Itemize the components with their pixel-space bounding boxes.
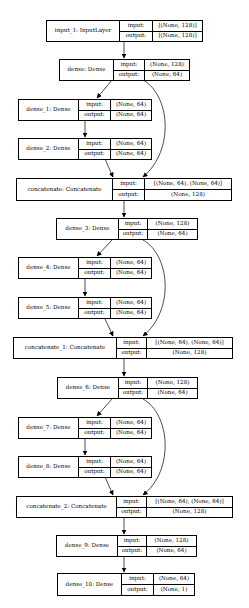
input-label: input:	[79, 258, 110, 269]
output-shape: (None, 64)	[148, 230, 197, 240]
node-dense_9: dense_9: Dense input: output: (None, 128…	[56, 535, 197, 557]
input-shape: (None, 128)	[148, 219, 197, 230]
input-label: input:	[114, 60, 144, 71]
output-shape: (None, 64)	[111, 309, 151, 319]
input-shape: (None, 128)	[145, 60, 189, 71]
node-dense_6: dense_6: Dense input: output: (None, 128…	[57, 377, 198, 399]
node-label: concatenate: Concatenate	[17, 179, 113, 200]
node-concatenate_1: concatenate_1: Concatenate input: output…	[13, 337, 233, 359]
edge-dense-dense_1	[97, 80, 112, 98]
node-dense_3: dense_3: Dense input: output: (None, 128…	[56, 218, 198, 240]
output-shape: (None, 64)	[111, 468, 151, 478]
output-shape: (None, 1)	[154, 585, 194, 595]
output-label: output:	[118, 547, 146, 557]
input-label: input:	[79, 298, 110, 309]
output-shape: (None, 128)	[145, 190, 231, 200]
input-shape: [(None, 64), (None, 64)]	[145, 179, 231, 190]
output-label: output:	[79, 269, 110, 279]
input-label: input:	[120, 21, 152, 32]
input-shape: (None, 64)	[111, 258, 151, 269]
input-shape: (None, 128)	[148, 378, 197, 389]
node-label: dense_3: Dense	[57, 219, 119, 239]
edge-dense_6-dense_7	[97, 399, 112, 416]
node-label: dense_9: Dense	[57, 536, 118, 556]
output-shape: (None, 64)	[111, 269, 151, 279]
edge-dense_3-dense_4	[97, 240, 112, 256]
output-label: output:	[79, 111, 110, 121]
input-shape: (None, 64)	[111, 457, 151, 468]
edge-dense_6-concatenate_2	[143, 399, 165, 495]
node-label: dense: Dense	[60, 60, 114, 80]
node-dense_2: dense_2: Dense input: output: (None, 64)…	[18, 138, 152, 160]
node-concatenate: concatenate: Concatenate input: output: …	[16, 178, 232, 201]
output-shape: (None, 64)	[111, 150, 151, 160]
output-shape: (None, 64)	[148, 389, 197, 399]
output-shape: (None, 128)	[147, 349, 232, 359]
node-label: dense_1: Dense	[19, 100, 79, 120]
node-input_1: input_1: InputLayer input: output: [(Non…	[46, 20, 203, 42]
input-label: input:	[118, 536, 146, 547]
input-shape: [(None, 64), (None, 64)]	[147, 497, 232, 508]
edge-dense-concatenate	[143, 80, 165, 177]
input-shape: (None, 64)	[111, 298, 151, 309]
node-concatenate_2: concatenate_2: Concatenate input: output…	[16, 496, 233, 518]
input-shape: (None, 128)	[147, 536, 196, 547]
output-label: output:	[119, 230, 147, 240]
input-label: input:	[119, 378, 147, 389]
input-shape: (None, 64)	[111, 139, 151, 150]
input-shape: (None, 64)	[154, 574, 194, 585]
output-shape: [(None, 128)]	[153, 32, 202, 42]
input-label: input:	[113, 179, 144, 190]
node-label: concatenate_2: Concatenate	[17, 497, 117, 517]
node-label: input_1: InputLayer	[47, 21, 120, 41]
node-label: concatenate_1: Concatenate	[14, 338, 117, 358]
output-shape: (None, 64)	[111, 429, 151, 439]
output-label: output:	[113, 190, 144, 200]
node-dense_8: dense_8: Dense input: output: (None, 64)…	[18, 456, 152, 478]
node-label: dense_6: Dense	[58, 378, 119, 398]
input-shape: [(None, 64), (None, 64)]	[147, 338, 232, 349]
output-label: output:	[117, 508, 146, 518]
output-label: output:	[114, 71, 144, 81]
input-label: input:	[119, 219, 147, 230]
input-label: input:	[117, 497, 146, 508]
node-dense_10: dense_10: Dense input: output: (None, 64…	[57, 573, 195, 596]
model-diagram: input_1: InputLayer input: output: [(Non…	[0, 0, 249, 608]
node-dense_5: dense_5: Dense input: output: (None, 64)…	[18, 297, 152, 319]
input-shape: (None, 64)	[111, 418, 151, 429]
node-label: dense_8: Dense	[19, 457, 79, 477]
input-label: input:	[79, 418, 110, 429]
output-shape: (None, 64)	[111, 111, 151, 121]
edge-dense_5-concatenate_1	[105, 319, 113, 336]
edge-dense_2-concatenate	[105, 159, 113, 177]
output-shape: (None, 64)	[145, 71, 189, 81]
output-label: output:	[119, 389, 147, 399]
node-label: dense_4: Dense	[19, 258, 79, 278]
input-shape: [(None, 128)]	[153, 21, 202, 32]
node-dense_4: dense_4: Dense input: output: (None, 64)…	[18, 257, 152, 279]
node-dense: dense: Dense input: output: (None, 128) …	[59, 59, 190, 81]
input-shape: (None, 64)	[111, 100, 151, 111]
output-label: output:	[122, 585, 153, 595]
input-label: input:	[79, 139, 110, 150]
input-label: input:	[117, 338, 146, 349]
node-dense_1: dense_1: Dense input: output: (None, 64)…	[18, 99, 152, 121]
node-label: dense_2: Dense	[19, 139, 79, 159]
input-label: input:	[79, 457, 110, 468]
input-label: input:	[122, 574, 153, 585]
node-dense_7: dense_7: Dense input: output: (None, 64)…	[18, 417, 152, 439]
output-label: output:	[79, 429, 110, 439]
output-label: output:	[79, 309, 110, 319]
input-label: input:	[79, 100, 110, 111]
output-label: output:	[117, 349, 146, 359]
node-label: dense_10: Dense	[58, 574, 122, 595]
output-label: output:	[120, 32, 152, 42]
edge-dense_8-concatenate_2	[105, 477, 113, 495]
output-shape: (None, 128)	[147, 508, 232, 518]
output-shape: (None, 64)	[147, 547, 196, 557]
output-label: output:	[79, 150, 110, 160]
node-label: dense_7: Dense	[19, 418, 79, 438]
node-label: dense_5: Dense	[19, 298, 79, 318]
output-label: output:	[79, 468, 110, 478]
edge-dense_3-concatenate_1	[143, 240, 165, 336]
